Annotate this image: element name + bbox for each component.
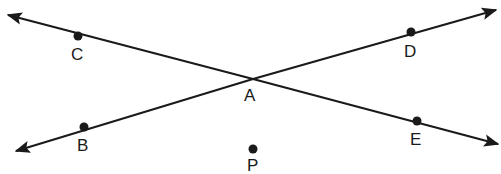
diagram-canvas: C D A B E P [0, 0, 501, 174]
geometry-diagram: C D A B E P [0, 0, 501, 174]
label-A: A [244, 86, 256, 105]
point-P [249, 145, 258, 154]
point-B [80, 123, 89, 132]
label-C: C [71, 45, 83, 64]
point-E [413, 117, 422, 126]
label-P: P [247, 156, 258, 174]
point-D [407, 28, 416, 37]
point-C [74, 32, 83, 41]
label-B: B [77, 136, 88, 155]
label-E: E [410, 130, 421, 149]
label-D: D [404, 42, 416, 61]
